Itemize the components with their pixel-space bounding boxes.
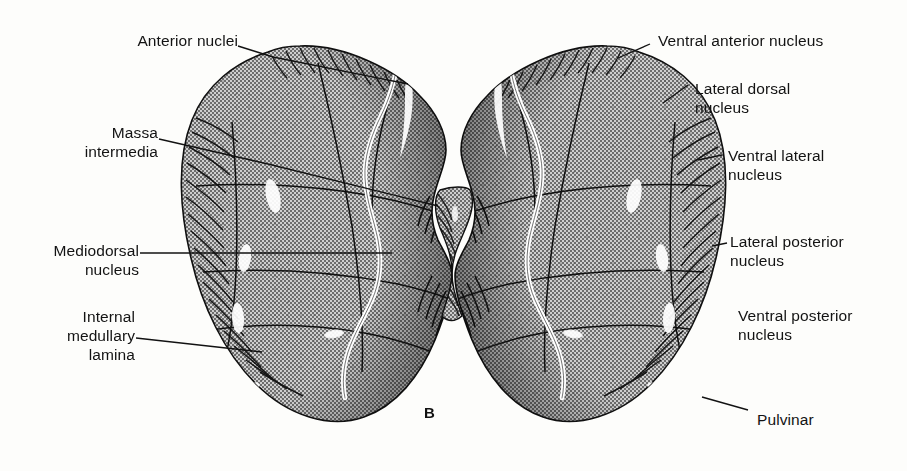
label-ventral-posterior-nucleus: Ventral posterior nucleus xyxy=(738,306,907,344)
left-thalamic-lobe xyxy=(180,40,470,440)
label-lateral-posterior-nucleus: Lateral posterior nucleus xyxy=(730,232,905,270)
label-anterior-nuclei: Anterior nuclei xyxy=(48,31,238,50)
right-thalamic-lobe xyxy=(437,40,727,440)
label-internal-medullary-lamina: Internal medullary lamina xyxy=(10,307,135,364)
panel-letter-b: B xyxy=(424,404,435,421)
label-lateral-dorsal-nucleus: Lateral dorsal nucleus xyxy=(695,79,900,117)
leader-pulvinar xyxy=(702,397,748,410)
label-massa-intermedia: Massa intermedia xyxy=(28,123,158,161)
label-ventral-lateral-nucleus: Ventral lateral nucleus xyxy=(728,146,903,184)
thalamus-figure: Anterior nuclei Massa intermedia Mediodo… xyxy=(0,0,907,471)
label-mediodorsal-nucleus: Mediodorsal nucleus xyxy=(8,241,139,279)
label-ventral-anterior-nucleus: Ventral anterior nucleus xyxy=(658,31,903,50)
label-pulvinar: Pulvinar xyxy=(757,410,877,429)
